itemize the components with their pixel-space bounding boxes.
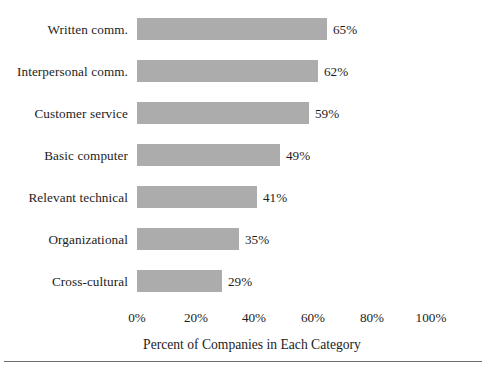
bar: [137, 186, 257, 208]
value-label: 29%: [228, 274, 252, 289]
chart-row: Organizational 35%: [0, 228, 488, 250]
bar: [137, 60, 318, 82]
x-axis: 0% 20% 40% 60% 80% 100%: [0, 309, 488, 329]
category-label: Interpersonal comm.: [0, 64, 128, 79]
x-axis-tick-label: 80%: [360, 309, 384, 327]
bar: [137, 18, 327, 40]
x-axis-tick-label: 40%: [242, 309, 266, 327]
category-label: Cross-cultural: [0, 274, 128, 289]
x-axis-title-text: Percent of Companies in Each Category: [143, 337, 361, 352]
chart-row: Relevant technical 41%: [0, 186, 488, 208]
value-label: 49%: [286, 148, 310, 163]
bar: [137, 228, 239, 250]
value-label: 62%: [324, 64, 348, 79]
category-label: Written comm.: [0, 22, 128, 37]
category-label: Customer service: [0, 106, 128, 121]
x-axis-title: Percent of Companies in Each Category: [0, 336, 488, 354]
chart-row: Written comm. 65%: [0, 18, 488, 40]
x-axis-tick-label: 20%: [184, 309, 208, 327]
category-label: Organizational: [0, 232, 128, 247]
category-label: Basic computer: [0, 148, 128, 163]
category-label: Relevant technical: [0, 190, 128, 205]
x-axis-tick-label: 0%: [128, 309, 146, 327]
x-axis-tick-label: 60%: [301, 309, 325, 327]
x-axis-tick-label: 100%: [416, 309, 447, 327]
value-label: 59%: [315, 106, 339, 121]
plot-area: Written comm. 65% Interpersonal comm. 62…: [0, 0, 488, 305]
chart-row: Interpersonal comm. 62%: [0, 60, 488, 82]
chart-row: Customer service 59%: [0, 102, 488, 124]
bar: [137, 102, 309, 124]
bar: [137, 144, 280, 166]
chart-row: Cross-cultural 29%: [0, 270, 488, 292]
bar: [137, 270, 222, 292]
value-label: 65%: [333, 22, 357, 37]
value-label: 41%: [263, 190, 287, 205]
value-label: 35%: [245, 232, 269, 247]
chart-row: Basic computer 49%: [0, 144, 488, 166]
bar-chart: Written comm. 65% Interpersonal comm. 62…: [0, 0, 488, 373]
bottom-divider: [4, 361, 482, 362]
